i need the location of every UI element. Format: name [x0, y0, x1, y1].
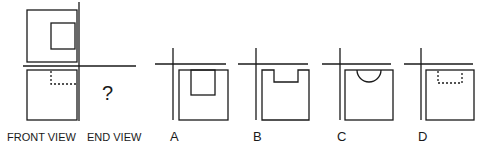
front-view	[27, 70, 77, 120]
option-d-label[interactable]: D	[418, 129, 427, 144]
unknown-end-view-mark: ?	[102, 82, 113, 105]
front-view-label: FRONT VIEW	[7, 131, 76, 143]
option-d-figure[interactable]	[404, 48, 474, 120]
orthographic-diagram	[0, 0, 482, 149]
option-c-figure[interactable]	[322, 48, 393, 120]
end-view-label: END VIEW	[87, 131, 141, 143]
top-view	[27, 10, 77, 62]
option-a-figure[interactable]	[155, 48, 228, 120]
option-b-figure[interactable]	[238, 48, 309, 120]
option-a-label[interactable]: A	[170, 129, 179, 144]
option-c-label[interactable]: C	[337, 129, 346, 144]
option-b-label[interactable]: B	[253, 129, 262, 144]
